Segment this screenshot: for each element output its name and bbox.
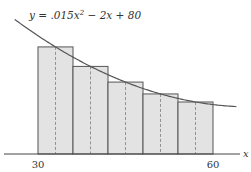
tick-label-30: 30 bbox=[32, 159, 45, 170]
equation-label: y = .015x2 − 2x + 80 bbox=[28, 9, 141, 21]
riemann-sum-chart: y = .015x2 − 2x + 80 x 30 60 bbox=[0, 0, 251, 172]
x-axis-label: x bbox=[243, 148, 249, 159]
riemann-rectangle bbox=[73, 66, 108, 154]
tick-label-60: 60 bbox=[207, 159, 220, 170]
